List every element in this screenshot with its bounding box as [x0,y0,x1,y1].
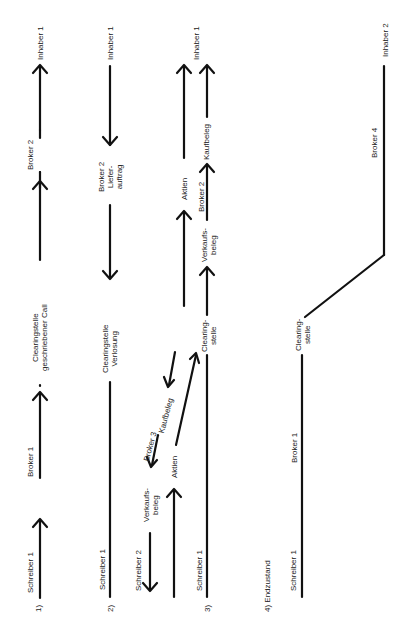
node-inhaber-1: Inhaber 1 [192,26,201,60]
node-clearingstelle: Clearing- stelle [200,320,218,352]
panel-1-number: 1) [34,605,43,612]
node-broker-2: Broker 2 [197,182,206,212]
node-broker-4: Broker 4 [370,128,379,158]
node-broker-1: Broker 1 [26,447,35,477]
node-schreiber-2: Schreiber 2 [134,550,143,591]
panel-2-number: 2) [106,605,115,612]
node-broker-1: Broker 1 [290,433,299,463]
panel-4-number: 4) Endzustand [263,560,272,612]
node-clearingstelle-verlosung: Clearingstelle Verlosung [101,325,119,373]
node-kaufbeleg: Kaufbeleg [202,124,211,160]
node-verkaufsbeleg: Verkaufs- beleg [200,228,218,262]
node-aktien: Aktien [180,178,189,200]
node-schreiber-1: Schreiber 1 [195,550,204,591]
node-clearingstelle: Clearing- stelle [294,319,312,351]
node-broker-2: Broker 2 [26,140,35,170]
node-broker-2-lieferauftrag: Broker 2 Liefer- auftrag [97,162,124,192]
node-inhaber-1: Inhaber 1 [106,26,115,60]
node-aktien: Aktien [170,456,179,478]
panel-3-number: 3) [203,605,212,612]
node-inhaber-1: Inhaber 1 [36,26,45,60]
node-clearingstelle-call: Clearingstelle geschriebener Call [31,304,49,371]
node-verkaufsbeleg: Verkaufs- beleg [142,488,160,522]
node-schreiber-1: Schreiber 1 [98,549,107,590]
node-schreiber-1: Schreiber 1 [26,552,35,593]
node-schreiber-1: Schreiber 1 [289,550,298,591]
node-inhaber-2: Inhaber 2 [381,23,390,57]
